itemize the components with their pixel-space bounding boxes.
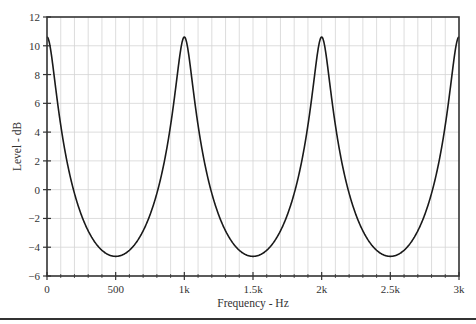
x-tick-label: 1k	[179, 283, 191, 295]
axis-ticks: 05001k1.5k2k2.5k3k−6−4−2024681012	[28, 11, 465, 295]
x-axis-label: Frequency - Hz	[217, 297, 289, 310]
y-tick-label: 2	[35, 155, 41, 167]
y-tick-label: 8	[35, 69, 41, 81]
y-tick-label: 6	[35, 97, 41, 109]
comb-filter-chart: 05001k1.5k2k2.5k3k−6−4−2024681012 Freque…	[0, 0, 476, 324]
x-tick-label: 1.5k	[243, 283, 263, 295]
x-tick-label: 3k	[454, 283, 466, 295]
caption-divider	[0, 318, 476, 320]
grid-lines	[47, 17, 459, 276]
x-tick-label: 0	[44, 283, 50, 295]
y-tick-label: −4	[28, 241, 40, 253]
x-tick-label: 2k	[316, 283, 328, 295]
y-axis-label: Level - dB	[11, 122, 23, 172]
y-tick-label: 4	[35, 126, 41, 138]
y-tick-label: −2	[28, 212, 40, 224]
x-tick-label: 500	[107, 283, 124, 295]
y-tick-label: 10	[29, 40, 41, 52]
x-tick-label: 2.5k	[381, 283, 401, 295]
y-tick-label: 12	[29, 11, 40, 23]
y-tick-label: 0	[35, 184, 41, 196]
y-tick-label: −6	[28, 270, 40, 282]
